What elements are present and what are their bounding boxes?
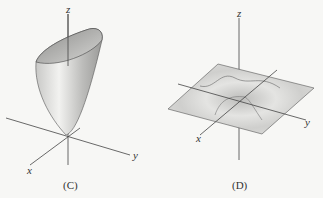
z-axis-label-c: z [66,4,70,15]
y-axis-label-c: y [133,150,138,161]
x-axis-label-d: x [196,133,201,144]
x-axis-label-c: x [27,165,32,176]
figure-canvas [0,0,323,198]
z-axis-label-d: z [237,8,241,19]
figure-d-wave-surface [168,18,314,160]
figure-c-paraboloid [6,14,130,165]
caption-c: (C) [63,180,78,191]
y-axis-label-d: y [305,117,310,128]
caption-d: (D) [232,180,247,191]
x-axis [30,128,80,165]
